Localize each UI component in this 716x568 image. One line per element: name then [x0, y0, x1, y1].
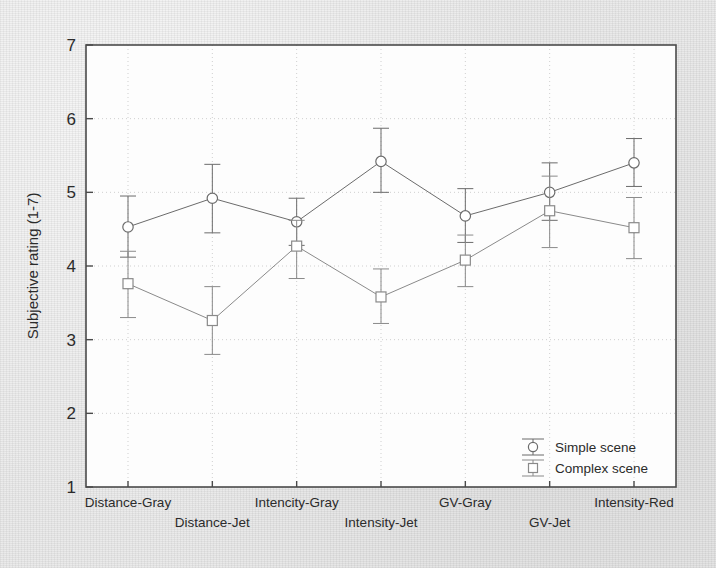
y-axis-tick-label: 6: [67, 110, 76, 129]
y-axis-tick-label: 5: [67, 183, 76, 202]
data-point-marker-square: [123, 279, 133, 289]
data-point-marker-circle: [123, 222, 133, 232]
y-axis-tick-label: 4: [67, 257, 76, 276]
x-axis-category-label: Intensity-Jet: [345, 515, 418, 530]
y-axis-tick-label: 7: [67, 36, 76, 55]
y-axis-title: Subjective rating (1-7): [24, 193, 41, 340]
x-axis-category-label: GV-Gray: [439, 495, 492, 510]
data-point-marker-square: [629, 223, 639, 233]
data-point-marker-square: [376, 292, 386, 302]
data-point-marker-square: [460, 255, 470, 265]
data-point-marker-circle: [376, 156, 386, 166]
y-axis-tick-label: 3: [67, 331, 76, 350]
x-axis-category-labels: Distance-GrayDistance-JetIntencity-GrayI…: [85, 495, 674, 530]
legend-label: Simple scene: [555, 440, 636, 455]
legend-label: Complex scene: [555, 461, 648, 476]
data-point-marker-square: [545, 206, 555, 216]
x-axis-category-label: Distance-Gray: [85, 495, 172, 510]
x-axis-category-label: Intensity-Red: [594, 495, 674, 510]
y-axis-tick-label: 1: [67, 478, 76, 497]
data-point-marker-square: [292, 241, 302, 251]
data-point-marker-circle: [460, 211, 470, 221]
data-point-marker-circle: [207, 193, 217, 203]
chart-svg: 1234567 Subjective rating (1-7) Distance…: [0, 0, 716, 568]
x-axis-category-label: GV-Jet: [529, 515, 571, 530]
data-point-marker-circle: [629, 158, 639, 168]
y-axis-tick-label: 2: [67, 404, 76, 423]
data-point-marker-square: [207, 316, 217, 326]
chart-figure: 1234567 Subjective rating (1-7) Distance…: [0, 0, 716, 568]
x-axis-category-label: Distance-Jet: [175, 515, 250, 530]
legend-marker-square: [529, 464, 538, 473]
legend-marker-circle: [528, 442, 537, 451]
x-axis-category-label: Intencity-Gray: [255, 495, 339, 510]
